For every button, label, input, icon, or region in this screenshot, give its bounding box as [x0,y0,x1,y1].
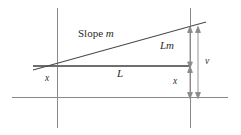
offset-right-label: x [173,77,177,87]
slope-line [33,22,206,70]
dimension-inner [188,27,193,99]
dimension-x-arrow-down [188,93,193,99]
dimension-x-arrow-up [188,67,193,73]
slope-diagram-figure: Slope m Lm L x x v [0,0,241,135]
slope-label-variable: m [106,27,114,39]
offset-left-label: x [45,74,49,84]
run-label: L [117,68,123,79]
slope-label-text: Slope [78,27,103,39]
slope-label: Slope m [78,28,114,39]
rise-label: Lm [160,40,174,51]
dimension-v-arrow-down [196,93,201,99]
total-rise-label: v [205,57,209,67]
dimension-outer-v [196,27,201,99]
dimension-v-arrow-up [196,27,201,33]
